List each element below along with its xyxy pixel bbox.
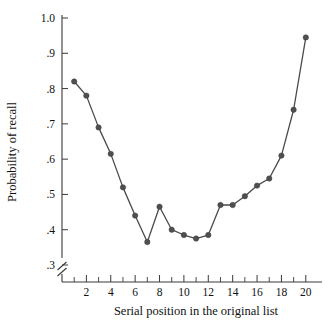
y-tick-label-.4: .4	[46, 224, 55, 236]
y-tick-label-.9: .9	[46, 47, 55, 59]
y-tick-label-.6: .6	[46, 153, 55, 165]
data-point-8	[157, 204, 162, 209]
data-point-18	[279, 153, 284, 158]
data-point-17	[267, 176, 272, 181]
x-tick-label-14: 14	[227, 286, 239, 298]
data-point-13	[218, 202, 223, 207]
x-tick-label-12: 12	[203, 286, 215, 298]
x-tick-label-16: 16	[251, 286, 263, 298]
chart-canvas: .3.4.5.6.7.8.91.0 2468101214161820 Seria…	[0, 0, 332, 323]
serial-position-chart: .3.4.5.6.7.8.91.0 2468101214161820 Seria…	[0, 0, 332, 323]
y-tick-label-.7: .7	[46, 118, 55, 130]
x-tick-label-6: 6	[132, 286, 138, 298]
y-axis-title: Probability of recall	[5, 101, 19, 201]
data-point-9	[169, 227, 174, 232]
x-tick-label-8: 8	[157, 286, 163, 298]
x-axis-title: Serial position in the original list	[114, 304, 279, 318]
data-point-6	[132, 213, 137, 218]
y-tick-label-.3: .3	[46, 259, 55, 271]
x-tick-label-2: 2	[84, 286, 90, 298]
data-point-19	[291, 107, 296, 112]
x-tick-label-18: 18	[276, 286, 288, 298]
data-point-11	[193, 236, 198, 241]
data-point-1	[71, 79, 76, 84]
data-point-10	[181, 232, 186, 237]
data-point-5	[120, 185, 125, 190]
y-tick-label-.8: .8	[46, 83, 55, 95]
y-tick-label-1.0: 1.0	[41, 12, 56, 24]
data-point-20	[303, 35, 308, 40]
x-tick-label-20: 20	[300, 286, 312, 298]
data-point-16	[254, 183, 259, 188]
x-tick-label-10: 10	[178, 286, 190, 298]
data-point-14	[230, 202, 235, 207]
data-point-15	[242, 193, 247, 198]
x-tick-label-4: 4	[108, 286, 114, 298]
y-tick-label-.5: .5	[46, 188, 55, 200]
data-point-7	[145, 239, 150, 244]
data-point-2	[84, 93, 89, 98]
data-point-3	[96, 125, 101, 130]
data-point-4	[108, 151, 113, 156]
data-point-12	[206, 232, 211, 237]
